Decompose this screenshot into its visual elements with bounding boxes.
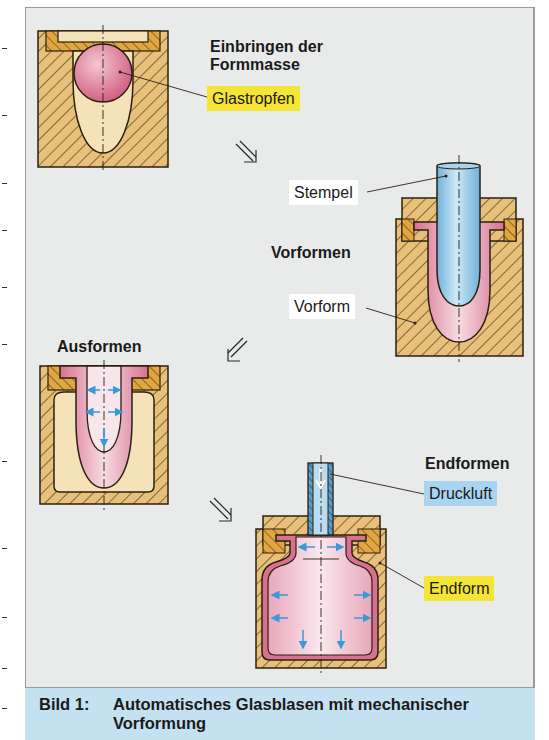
flow-arrow-3-icon [210,498,231,521]
glassblowing-diagram [0,0,549,740]
step-heading-endformen: Endformen [425,455,509,473]
label-endform: Endform [424,576,494,601]
label-druckluft: Druckluft [424,481,497,506]
label-stempel: Stempel [289,180,358,205]
flow-arrow-2-icon [228,338,247,361]
step-vorformen-diagram [366,155,523,362]
step-heading-ausformen: Ausformen [57,338,141,356]
caption-number: Bild 1: [39,695,89,714]
step-endformen-diagram [256,455,424,675]
heading-line: Einbringen der [210,38,323,56]
label-vorform: Vorform [289,294,355,319]
figure-caption: Bild 1: Automatisches Glasblasen mit mec… [25,687,535,740]
caption-title: Automatisches Glasblasen mit mechanische… [113,695,523,733]
step-ausformen-diagram [40,360,168,510]
flow-arrow-1-icon [236,141,256,162]
heading-line: Formmasse [210,56,323,74]
step-heading-vorformen: Vorformen [271,244,351,262]
step-heading-einbringen: Einbringen der Formmasse [210,38,323,74]
label-glastropfen: Glastropfen [207,86,300,111]
step-einbringen-diagram [38,25,207,173]
